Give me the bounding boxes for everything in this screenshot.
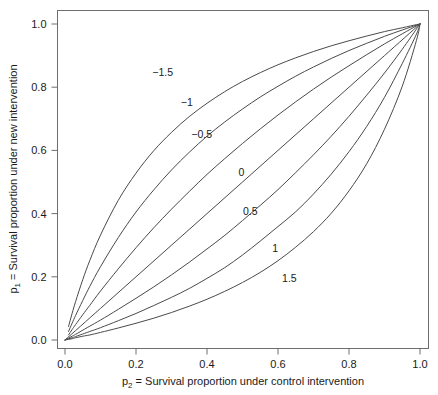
x-tick-label: 0.6 (270, 358, 285, 370)
x-tick-label: 0.4 (199, 358, 214, 370)
y-tick-label: 0.0 (31, 334, 46, 346)
curve-label-neg0_5: −0.5 (191, 128, 212, 140)
y-tick-label: 1.0 (31, 18, 46, 30)
chart-background (0, 0, 438, 395)
curve-label-1_5: 1.5 (282, 272, 297, 284)
y-tick-label: 0.2 (31, 271, 46, 283)
y-tick-label: 0.4 (31, 208, 46, 220)
y-tick-label: 0.6 (31, 144, 46, 156)
x-tick-label: 1.0 (412, 358, 427, 370)
x-tick-label: 0.8 (341, 358, 356, 370)
x-tick-label: 0.0 (57, 358, 72, 370)
y-tick-label: 0.8 (31, 81, 46, 93)
curve-label-0_5: 0.5 (243, 205, 258, 217)
curve-label-neg1_5: −1.5 (152, 66, 173, 78)
curve-label-0: 0 (239, 166, 245, 178)
survival-proportion-contour-chart: 0.00.20.40.60.81.0 0.00.20.40.60.81.0 −1… (0, 0, 438, 395)
figure-container: 0.00.20.40.60.81.0 0.00.20.40.60.81.0 −1… (0, 0, 438, 395)
x-tick-label: 0.2 (128, 358, 143, 370)
curve-label-neg1: −1 (181, 96, 193, 108)
curve-label-1: 1 (272, 242, 278, 254)
